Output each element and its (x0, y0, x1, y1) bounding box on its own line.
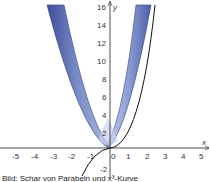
svg-text:-4: -4 (31, 152, 39, 161)
svg-text:1: 1 (126, 152, 131, 161)
svg-text:-3: -3 (50, 152, 58, 161)
svg-text:2: 2 (145, 152, 150, 161)
svg-text:y: y (112, 3, 118, 12)
svg-text:14: 14 (97, 21, 106, 30)
svg-text:2: 2 (102, 129, 107, 138)
figure-caption: Bild: Schar von Parabeln und x³-Kurve (2, 174, 138, 182)
svg-text:-2: -2 (68, 152, 76, 161)
svg-text:x: x (201, 138, 207, 147)
svg-text:4: 4 (181, 152, 186, 161)
svg-text:6: 6 (102, 93, 107, 102)
svg-text:-1: -1 (87, 152, 95, 161)
plot: x y -5 -4 -3 -2 -1 0 1 2 3 4 5 16 14 12 … (0, 0, 211, 182)
svg-text:3: 3 (163, 152, 168, 161)
svg-text:10: 10 (97, 57, 106, 66)
svg-text:16: 16 (97, 3, 106, 12)
svg-text:12: 12 (97, 39, 106, 48)
svg-text:0: 0 (111, 152, 116, 161)
svg-text:5: 5 (199, 152, 204, 161)
svg-text:-5: -5 (12, 152, 20, 161)
x-ticks: -5 -4 -3 -2 -1 0 1 2 3 4 5 (12, 152, 204, 161)
svg-text:-2: -2 (100, 165, 108, 174)
svg-text:8: 8 (102, 75, 107, 84)
svg-text:4: 4 (102, 111, 107, 120)
